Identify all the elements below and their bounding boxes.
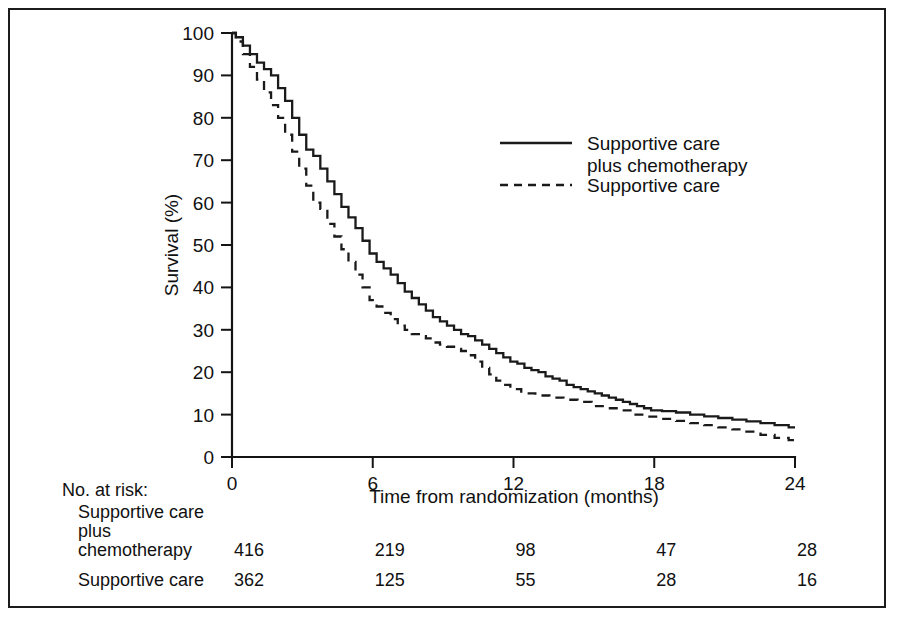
risk-row-label: Supportive care [78, 502, 204, 522]
y-tick-label: 90 [193, 65, 214, 86]
y-tick-label: 20 [193, 362, 214, 383]
x-tick-label: 0 [227, 473, 238, 494]
y-axis-ticks: 0102030405060708090100 [182, 23, 232, 468]
risk-value: 55 [516, 570, 536, 590]
curve-supportive-care [232, 33, 795, 440]
risk-value: 416 [234, 540, 264, 560]
risk-value: 362 [234, 570, 264, 590]
risk-value: 219 [375, 540, 405, 560]
risk-value: 98 [516, 540, 536, 560]
y-tick-label: 60 [193, 193, 214, 214]
risk-row-label: Supportive care [78, 570, 204, 590]
legend-label-supportive: Supportive care [587, 175, 720, 196]
y-axis-title: Survival (%) [161, 194, 182, 296]
y-tick-label: 100 [182, 23, 214, 44]
plot-axes [232, 33, 795, 457]
figure-page: 0102030405060708090100 06121824 Survival… [0, 0, 899, 619]
risk-table-title: No. at risk: [62, 480, 148, 500]
risk-table-rows: Supportive carepluschemotherapy416219984… [78, 502, 817, 590]
y-tick-label: 30 [193, 320, 214, 341]
risk-value: 28 [797, 540, 817, 560]
risk-value: 125 [375, 570, 405, 590]
survival-chart: 0102030405060708090100 06121824 Survival… [0, 0, 899, 619]
y-tick-label: 80 [193, 108, 214, 129]
x-axis-title: Time from randomization (months) [369, 486, 659, 507]
curve-supportive-care-plus-chemotherapy [232, 33, 795, 427]
y-tick-label: 40 [193, 277, 214, 298]
risk-value: 16 [797, 570, 817, 590]
y-tick-label: 0 [203, 447, 214, 468]
legend-label-chemo-line2: plus chemotherapy [587, 155, 748, 176]
legend-label-chemo-line1: Supportive care [587, 133, 720, 154]
y-tick-label: 50 [193, 235, 214, 256]
risk-row-label: chemotherapy [78, 540, 192, 560]
y-tick-label: 10 [193, 405, 214, 426]
x-tick-label: 24 [784, 473, 806, 494]
chart-legend: Supportive care plus chemotherapy Suppor… [500, 133, 748, 196]
y-tick-label: 70 [193, 150, 214, 171]
risk-row-label: plus [78, 521, 111, 541]
risk-value: 47 [656, 540, 676, 560]
risk-value: 28 [656, 570, 676, 590]
